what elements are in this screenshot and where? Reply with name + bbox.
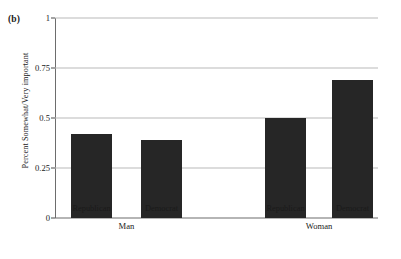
y-tick-mark — [51, 18, 55, 19]
y-tick-label: 0 — [46, 213, 50, 223]
bar-chart-figure: (b) Percent Somewhat/Very important 00.2… — [0, 0, 401, 259]
gridline — [55, 118, 378, 119]
x-category-label: Democrat — [336, 204, 369, 213]
x-category-label: Democrat — [145, 204, 178, 213]
bar — [265, 118, 306, 218]
bar — [332, 80, 373, 218]
gridline — [55, 18, 378, 19]
y-tick-mark — [51, 218, 55, 219]
y-tick-label: 0.5 — [39, 113, 50, 123]
y-tick-mark — [51, 168, 55, 169]
plot-area: 00.250.50.751 — [55, 18, 378, 218]
x-group-label: Woman — [306, 221, 333, 231]
x-group-label: Man — [119, 221, 135, 231]
gridline — [55, 68, 378, 69]
y-tick-label: 0.75 — [35, 63, 50, 73]
y-tick-mark — [51, 68, 55, 69]
x-category-label: Republican — [72, 204, 110, 213]
y-tick-label: 0.25 — [35, 163, 50, 173]
x-category-label: Republican — [266, 204, 304, 213]
panel-label: (b) — [8, 14, 20, 24]
y-tick-mark — [51, 118, 55, 119]
y-axis-title: Percent Somewhat/Very important — [21, 11, 30, 211]
y-tick-label: 1 — [46, 13, 50, 23]
